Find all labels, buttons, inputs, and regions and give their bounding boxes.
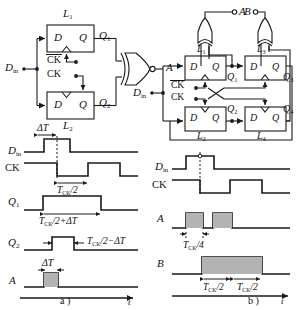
- annot-delta-t-top-a: ΔT: [37, 123, 48, 133]
- latch-b-L4-q: Q: [272, 113, 279, 123]
- ck-to-L2: [76, 76, 83, 90]
- din-label-b: Din: [133, 87, 146, 98]
- gate-output-label-a: A: [166, 62, 173, 73]
- xorB-out-wire: [258, 12, 265, 18]
- xorA-out-terminal: [232, 10, 236, 14]
- timing-b-a-label: A: [157, 213, 164, 224]
- annot-tck-half-b1: TCK/2: [203, 283, 224, 293]
- latch-b-L4-d: D: [250, 113, 257, 123]
- q2-label-a: Q2: [99, 97, 110, 108]
- wave-b-a-pulse2-fill: [213, 213, 232, 228]
- ref-dot-b: [198, 154, 202, 158]
- latch-b-L4-label: L4: [257, 131, 266, 141]
- wave-a-out-pulse1-fill: [44, 273, 58, 287]
- wave-b-din: [172, 156, 290, 169]
- latch-b-L2-clk-tri: [201, 107, 209, 112]
- latch-b-L3-label: L3: [257, 44, 266, 54]
- xorA-body-b: [198, 18, 212, 43]
- latch-b-L2-label: L2: [197, 131, 206, 141]
- din-label-a: Din: [5, 62, 18, 73]
- din-terminal-b: [150, 91, 154, 95]
- annot-tck-half-b2: TCK/2: [237, 283, 258, 293]
- xorB-out-terminal: [253, 10, 257, 14]
- timing-b-din-label: Din: [155, 161, 168, 172]
- caption-a: a ): [60, 296, 70, 306]
- ckbar-label-b: CK: [170, 80, 185, 91]
- circuit-b-group: [150, 10, 292, 140]
- latch-L1-d-label: D: [54, 32, 62, 43]
- annot-tck-quarter-b: TCK/4: [183, 241, 204, 251]
- figure-root: L1 L2 D Q D Q Q1 Q2 Din CK CK A L1 L3 L2…: [0, 0, 297, 310]
- wave-a-out: [24, 273, 138, 287]
- q2-label-b: Q2: [227, 104, 237, 114]
- latch-L2-clk-tri: [62, 92, 71, 98]
- latch-L1-q-label: Q: [79, 32, 87, 43]
- latch-b-L1-q: Q: [212, 62, 219, 72]
- wave-a-ck: [24, 163, 138, 176]
- q2-junction-b: [230, 119, 234, 123]
- din-terminal-a: [22, 67, 26, 71]
- latch-b-L3-q: Q: [272, 62, 279, 72]
- latch-L2-q-label: Q: [79, 99, 87, 110]
- latch-b-L2-d: D: [190, 113, 197, 123]
- xnor-back-arc-a: [121, 53, 125, 85]
- wave-a-din: [24, 139, 138, 152]
- latch-b-L2-q: Q: [212, 113, 219, 123]
- latch-L1-label: L1: [63, 8, 73, 19]
- latch-b-L4-clk-tri: [261, 107, 269, 112]
- xnor-body-a: [125, 53, 150, 85]
- annot-tck-half-a: TCK/2: [57, 186, 78, 196]
- timing-b-ck-label: CK: [152, 180, 167, 191]
- timing-a-fills: [44, 273, 58, 287]
- latch-b-L1-d: D: [190, 62, 197, 72]
- annot-tck-half-plus-a: TCK/2+ΔT: [39, 217, 77, 227]
- q4-label-b: Q4: [283, 104, 293, 114]
- time-axis-label-a: t: [128, 298, 131, 307]
- q3-label-b: Q3: [283, 72, 293, 82]
- timing-b-b-label: B: [157, 258, 164, 269]
- timing-a-ck-label: CK: [5, 163, 20, 174]
- q1-label-a: Q1: [99, 30, 110, 41]
- ck-label-b: CK: [170, 93, 185, 103]
- wave-b-ck: [172, 180, 290, 193]
- gateB-output-label-b: B: [244, 6, 251, 17]
- ck-label-a: CK: [46, 69, 62, 79]
- xnor-bubble-a: [150, 66, 155, 71]
- annot-delta-t-out-a: ΔT: [42, 258, 53, 268]
- latch-b-L1-clk-tri: [201, 75, 209, 80]
- caption-b: b ): [248, 296, 259, 306]
- wave-a-q1: [24, 196, 138, 210]
- latch-b-L3-d: D: [250, 62, 257, 72]
- wave-b-a-pulse1-fill: [186, 213, 203, 228]
- xorB-body-b: [258, 18, 272, 43]
- xorA-out-wire: [205, 12, 232, 18]
- timing-a-q1-label: Q1: [8, 196, 19, 207]
- q1-label-b: Q1: [227, 72, 237, 82]
- latch-L2-d-label: D: [54, 99, 62, 110]
- circuit-a-group: [22, 25, 163, 119]
- latch-L2-label: L2: [63, 120, 73, 131]
- latch-b-L1-label: L1: [197, 44, 206, 54]
- ckbar-label-a: CK: [46, 54, 62, 66]
- timing-a-q2-label: Q2: [8, 237, 19, 248]
- ckbar-to-bL3: [224, 82, 265, 88]
- annot-tck-half-minus-a: TCK/2−ΔT: [87, 237, 125, 247]
- latch-L1-clk-tri: [62, 47, 71, 53]
- time-axis-label-b: t: [281, 297, 284, 306]
- timing-a-out-label: A: [9, 275, 16, 286]
- timing-a-din-label: Din: [8, 145, 21, 156]
- wave-b-b-pulse-fill: [202, 257, 262, 274]
- latch-b-L3-clk-tri: [261, 75, 269, 80]
